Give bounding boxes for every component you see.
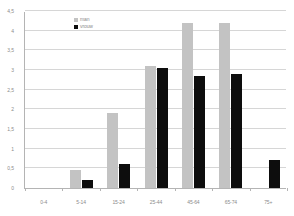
bar-vrouw-25-44 xyxy=(157,68,168,188)
x-axis-tick-label: 65-74 xyxy=(212,200,249,205)
plot-area: 00,511,522,533,544,5 0-45-1415-2425-4445… xyxy=(24,12,286,189)
x-axis-tick-label: 45-64 xyxy=(175,200,212,205)
gridline xyxy=(25,30,286,31)
gridline xyxy=(25,167,286,168)
y-axis-tick-label: 2,5 xyxy=(0,88,14,93)
bar-man-65-74 xyxy=(219,23,230,188)
bar-vrouw-5-14 xyxy=(82,180,93,188)
y-axis-tick-label: 0 xyxy=(0,186,14,191)
bar-vrouw-15-24 xyxy=(119,164,130,188)
x-axis-tick xyxy=(175,188,176,191)
x-axis-tick-label: 5-14 xyxy=(62,200,99,205)
legend-swatch-icon xyxy=(74,25,78,29)
gridline xyxy=(25,49,286,50)
y-axis-tick-label: 3 xyxy=(0,68,14,73)
x-axis-tick xyxy=(287,188,288,191)
x-axis-tick xyxy=(250,188,251,191)
x-axis-tick-label: 0-4 xyxy=(25,200,62,205)
legend-swatch-icon xyxy=(74,18,78,22)
y-axis-tick-label: 1 xyxy=(0,147,14,152)
bar-vrouw-75+ xyxy=(269,160,280,188)
gridline xyxy=(25,69,286,70)
legend-label: vrouw xyxy=(80,23,93,30)
bar-man-25-44 xyxy=(145,66,156,188)
y-axis-tick-label: 4,5 xyxy=(0,9,14,14)
x-axis-tick xyxy=(25,188,26,191)
bar-vrouw-65-74 xyxy=(231,74,242,188)
gridline xyxy=(25,10,286,11)
bar-man-45-64 xyxy=(182,23,193,188)
y-axis-tick-label: 0,5 xyxy=(0,166,14,171)
legend-entry-vrouw[interactable]: vrouw xyxy=(74,23,93,30)
x-axis-tick xyxy=(100,188,101,191)
bar-man-5-14 xyxy=(70,170,81,188)
legend-entry-man[interactable]: man xyxy=(74,16,93,23)
bar-chart: 00,511,522,533,544,5 0-45-1415-2425-4445… xyxy=(0,0,294,216)
y-axis-tick-label: 4 xyxy=(0,29,14,34)
gridline xyxy=(25,108,286,109)
x-axis-tick-label: 75+ xyxy=(250,200,287,205)
x-axis-tick-label: 25-44 xyxy=(137,200,174,205)
gridline xyxy=(25,128,286,129)
y-axis-tick-label: 1,5 xyxy=(0,127,14,132)
x-axis-tick xyxy=(62,188,63,191)
bar-man-15-24 xyxy=(107,113,118,188)
x-axis-tick xyxy=(137,188,138,191)
x-axis-tick-label: 15-24 xyxy=(100,200,137,205)
legend-label: man xyxy=(80,16,89,23)
gridline xyxy=(25,148,286,149)
x-axis-tick xyxy=(212,188,213,191)
y-axis-tick-label: 3,5 xyxy=(0,48,14,53)
y-axis-tick-label: 2 xyxy=(0,107,14,112)
bar-vrouw-45-64 xyxy=(194,76,205,188)
gridline xyxy=(25,89,286,90)
chart-legend: manvrouw xyxy=(74,16,93,30)
